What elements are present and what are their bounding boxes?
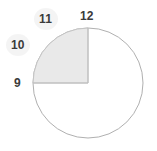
tick-label-10: 10: [11, 39, 25, 51]
tick-label-11: 11: [39, 13, 52, 25]
clock-diagram: 9 10 11 12: [0, 0, 157, 151]
shaded-sector: [33, 28, 88, 83]
clock-face-svg: [0, 0, 157, 151]
tick-label-9: 9: [14, 77, 21, 89]
tick-label-12: 12: [80, 10, 94, 22]
